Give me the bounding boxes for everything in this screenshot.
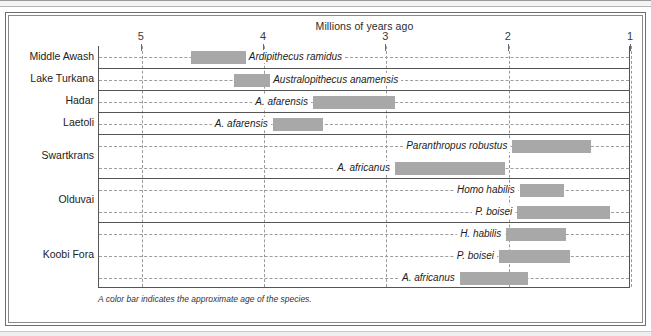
site-band: Paranthropus robustusA. africanus xyxy=(99,134,629,178)
figure-caption: A color bar indicates the approximate ag… xyxy=(98,294,312,304)
age-range-bar xyxy=(313,96,395,109)
species-row: P. boisei xyxy=(99,201,629,223)
species-row: Ardipithecus ramidus xyxy=(99,46,629,68)
age-range-bar xyxy=(499,250,570,263)
site-label-laetoli: Laetoli xyxy=(0,116,94,128)
species-label: Australopithecus anamensis xyxy=(270,73,401,86)
species-label: A. afarensis xyxy=(212,117,271,130)
age-range-bar xyxy=(506,228,566,241)
scan-edge-top xyxy=(0,0,651,7)
species-label: A. africanus xyxy=(334,161,393,174)
axis-title: Millions of years ago xyxy=(12,20,639,32)
species-row: Homo habilis xyxy=(99,179,629,201)
species-row: Paranthropus robustus xyxy=(99,135,629,157)
site-label-hadar: Hadar xyxy=(0,94,94,106)
species-row: H. habilis xyxy=(99,223,629,245)
site-band: H. habilisP. boiseiA. africanus xyxy=(99,222,629,288)
species-row: A. africanus xyxy=(99,267,629,289)
row-dashed-line xyxy=(99,278,629,279)
axis-tick-1: 1 xyxy=(627,30,633,42)
species-label: Paranthropus robustus xyxy=(403,139,510,152)
site-label-koobi-fora: Koobi Fora xyxy=(0,248,94,260)
species-label: A. afarensis xyxy=(252,95,311,108)
plot-area: Ardipithecus ramidusAustralopithecus ana… xyxy=(98,46,630,288)
age-range-bar xyxy=(520,184,564,197)
age-range-bar xyxy=(512,140,590,153)
species-row: A. africanus xyxy=(99,157,629,179)
species-row: Australopithecus anamensis xyxy=(99,69,629,91)
species-row: A. afarensis xyxy=(99,113,629,135)
species-label: P. boisei xyxy=(472,205,515,218)
species-label: A. africanus xyxy=(399,271,458,284)
species-label: H. habilis xyxy=(457,227,504,240)
site-label-swartkrans: Swartkrans xyxy=(0,149,94,161)
site-label-middle-awash: Middle Awash xyxy=(0,50,94,62)
site-label-olduvai: Olduvai xyxy=(0,193,94,205)
row-dashed-line xyxy=(99,124,629,125)
site-band: A. afarensis xyxy=(99,90,629,112)
site-band: Ardipithecus ramidus xyxy=(99,46,629,68)
site-band: Australopithecus anamensis xyxy=(99,68,629,90)
timeline-chart: Millions of years ago 54321 Ardipithecus… xyxy=(12,18,639,318)
axis-tick-2: 2 xyxy=(505,30,511,42)
age-range-bar xyxy=(517,206,610,219)
axis-tick-5: 5 xyxy=(138,30,144,42)
age-range-bar xyxy=(395,162,505,175)
scan-edge-bottom xyxy=(0,331,651,336)
species-label: Ardipithecus ramidus xyxy=(246,50,345,63)
age-range-bar xyxy=(273,118,323,131)
site-band: Homo habilisP. boisei xyxy=(99,178,629,222)
species-label: P. boisei xyxy=(454,249,497,262)
species-row: P. boisei xyxy=(99,245,629,267)
gridline-1 xyxy=(631,46,632,287)
axis-tick-4: 4 xyxy=(260,30,266,42)
age-range-bar xyxy=(191,51,246,64)
site-band: A. afarensis xyxy=(99,112,629,134)
site-label-lake-turkana: Lake Turkana xyxy=(0,72,94,84)
age-range-bar xyxy=(234,74,271,87)
age-range-bar xyxy=(460,272,528,285)
species-row: A. afarensis xyxy=(99,91,629,113)
axis-tick-3: 3 xyxy=(382,30,388,42)
row-dashed-line xyxy=(99,57,629,58)
species-label: Homo habilis xyxy=(454,183,518,196)
